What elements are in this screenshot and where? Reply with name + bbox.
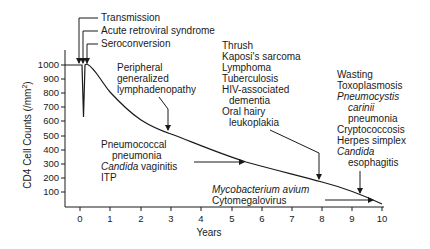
late-infections-annotation: Wasting Toxoplasmosis Pneumocystis carin… [337,69,406,193]
cd4-chart: 1000 900 800 700 600 500 400 300 200 100… [0,0,430,249]
svg-text:10: 10 [377,213,388,224]
svg-text:Peripheral: Peripheral [117,62,163,73]
x-tick-labels: 0 1 2 3 4 5 6 7 8 9 10 [77,213,387,224]
label-acute-retroviral-syndrome: Acute retroviral syndrome [101,25,215,36]
svg-text:200: 200 [43,172,59,183]
svg-text:300: 300 [43,158,59,169]
svg-text:dementia: dementia [229,95,271,106]
svg-text:500: 500 [43,130,59,141]
svg-text:8: 8 [319,213,324,224]
label-transmission: Transmission [101,12,160,23]
svg-text:carinii: carinii [348,102,375,113]
svg-text:Oral hairy: Oral hairy [222,106,265,117]
svg-text:Herpes simplex: Herpes simplex [337,135,406,146]
svg-text:Pneumocystis: Pneumocystis [337,91,399,102]
svg-text:900: 900 [43,73,59,84]
svg-text:pneumonia: pneumonia [348,113,398,124]
svg-text:1000: 1000 [38,59,59,70]
svg-text:6: 6 [259,213,264,224]
svg-text:3: 3 [168,213,173,224]
svg-text:Candida: Candida [337,146,375,157]
svg-text:0: 0 [77,213,82,224]
svg-text:leukoplakia: leukoplakia [229,117,279,128]
svg-text:100: 100 [43,186,59,197]
svg-text:600: 600 [43,115,59,126]
svg-text:400: 400 [43,144,59,155]
svg-text:esophagitis: esophagitis [348,157,399,168]
early-event-leaders [79,18,98,63]
svg-text:800: 800 [43,87,59,98]
pgl-annotation: Peripheral generalized lymphadenopathy [117,62,196,130]
mid-infections-annotation: Thrush Kaposi's sarcoma Lymphoma Tubercu… [222,40,319,179]
svg-text:5: 5 [229,213,234,224]
mac-cmv-annotation: Mycobacterium avium Cytomegalovirus [212,184,373,206]
svg-text:4: 4 [198,213,203,224]
svg-text:Thrush: Thrush [222,40,253,51]
y-tick-labels: 1000 900 800 700 600 500 400 300 200 100 [38,59,59,197]
svg-text:Tuberculosis: Tuberculosis [222,73,278,84]
svg-text:Toxoplasmosis: Toxoplasmosis [337,80,403,91]
svg-text:ITP: ITP [101,172,117,183]
svg-text:pneumonia: pneumonia [112,150,162,161]
x-axis-title: Years [196,227,221,238]
label-seroconversion: Seroconversion [101,38,170,49]
svg-text:HIV-associated: HIV-associated [222,84,289,95]
svg-text:generalized: generalized [117,73,169,84]
y-axis-title: CD4 Cell Counts (/mm2) [21,81,33,188]
svg-text:Cytomegalovirus: Cytomegalovirus [212,195,286,206]
svg-text:Cryptococcosis: Cryptococcosis [337,124,405,135]
svg-text:Candida vaginitis: Candida vaginitis [101,161,177,172]
svg-text:Kaposi's sarcoma: Kaposi's sarcoma [222,51,301,62]
svg-text:lymphadenopathy: lymphadenopathy [117,84,196,95]
svg-text:700: 700 [43,101,59,112]
svg-text:2: 2 [138,213,143,224]
svg-text:1: 1 [107,213,112,224]
early-infections-annotation: Pneumococcal pneumonia Candida vaginitis… [101,139,244,183]
svg-text:7: 7 [289,213,294,224]
svg-text:Mycobacterium avium: Mycobacterium avium [212,184,309,195]
svg-text:9: 9 [349,213,354,224]
svg-text:Pneumococcal: Pneumococcal [101,139,167,150]
svg-text:Wasting: Wasting [337,69,373,80]
svg-text:Lymphoma: Lymphoma [222,62,272,73]
